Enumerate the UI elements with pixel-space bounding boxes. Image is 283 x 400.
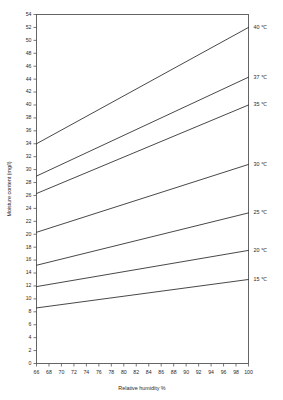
y-tick-label: 46: [26, 63, 32, 69]
series-label-30c: 30 ℃: [254, 161, 268, 167]
x-tick-label: 92: [196, 369, 202, 375]
x-tick-label: 86: [158, 369, 164, 375]
x-axis-title: Relative humidity %: [118, 385, 166, 391]
y-tick-label: 44: [26, 76, 32, 82]
x-tick-label: 94: [208, 369, 214, 375]
y-tick-label: 20: [26, 231, 32, 237]
x-tick-label: 72: [71, 369, 77, 375]
y-tick-label: 34: [26, 140, 32, 146]
y-tick-label: 8: [29, 308, 32, 314]
y-tick-label: 52: [26, 24, 32, 30]
series-label-25c: 25 ℃: [254, 209, 268, 215]
y-tick-label: 42: [26, 88, 32, 94]
y-tick-label: 6: [29, 321, 32, 327]
x-tick-label: 74: [83, 369, 89, 375]
chart-container: 0246810121416182022242628303234363840424…: [0, 0, 283, 400]
y-tick-label: 18: [26, 244, 32, 250]
x-tick-label: 98: [233, 369, 239, 375]
y-tick-label: 50: [26, 37, 32, 43]
x-tick-label: 78: [108, 369, 114, 375]
y-tick-label: 0: [29, 360, 32, 366]
y-tick-label: 26: [26, 192, 32, 198]
y-tick-label: 40: [26, 101, 32, 107]
y-tick-label: 30: [26, 166, 32, 172]
x-tick-label: 100: [244, 369, 253, 375]
x-tick-label: 76: [96, 369, 102, 375]
y-tick-label: 4: [29, 334, 32, 340]
y-tick-label: 10: [26, 295, 32, 301]
y-tick-label: 22: [26, 218, 32, 224]
y-tick-label: 28: [26, 179, 32, 185]
x-tick-label: 80: [121, 369, 127, 375]
y-tick-label: 2: [29, 347, 32, 353]
x-tick-label: 68: [46, 369, 52, 375]
series-label-40c: 40 ℃: [254, 24, 268, 30]
y-tick-label: 48: [26, 50, 32, 56]
x-tick-label: 84: [146, 369, 152, 375]
y-tick-label: 16: [26, 256, 32, 262]
y-tick-label: 54: [26, 11, 32, 17]
y-tick-label: 24: [26, 205, 32, 211]
x-tick-label: 82: [133, 369, 139, 375]
series-label-35c: 35 ℃: [254, 101, 268, 107]
x-tick-label: 66: [34, 369, 40, 375]
y-tick-label: 36: [26, 127, 32, 133]
y-tick-label: 12: [26, 282, 32, 288]
x-tick-label: 96: [221, 369, 227, 375]
y-tick-label: 32: [26, 153, 32, 159]
x-tick-label: 88: [171, 369, 177, 375]
series-label-15c: 15 ℃: [254, 276, 268, 282]
x-tick-label: 90: [183, 369, 189, 375]
chart-background: [0, 0, 283, 400]
y-tick-label: 38: [26, 114, 32, 120]
x-tick-label: 70: [59, 369, 65, 375]
series-label-20c: 20 ℃: [254, 247, 268, 253]
series-label-37c: 37 ℃: [254, 74, 268, 80]
moisture-humidity-line-chart: 0246810121416182022242628303234363840424…: [0, 0, 283, 400]
y-axis-title: Moisture content (mg/l): [6, 161, 12, 216]
y-tick-label: 14: [26, 269, 32, 275]
